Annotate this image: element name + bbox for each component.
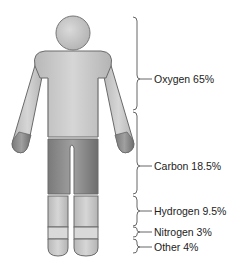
torso-oxygen	[34, 51, 111, 137]
left-leg-nitrogen	[48, 227, 68, 239]
right-arm	[103, 62, 134, 153]
right-leg-hydrogen	[74, 196, 98, 227]
right-leg-nitrogen	[74, 227, 98, 239]
head	[56, 16, 90, 50]
label-hydrogen: Hydrogen 9.5%	[154, 205, 226, 217]
brace-oxygen	[133, 17, 140, 110]
brace-carbon	[133, 112, 140, 194]
left-arm	[12, 62, 43, 153]
label-carbon: Carbon 18.5%	[154, 160, 221, 172]
label-other: Other 4%	[154, 241, 198, 253]
right-foot-other	[74, 239, 98, 256]
braces	[133, 17, 152, 253]
carbon-region	[48, 139, 98, 194]
left-leg-hydrogen	[48, 196, 68, 227]
brace-hydrogen	[133, 196, 140, 226]
label-oxygen: Oxygen 65%	[154, 73, 214, 85]
label-nitrogen: Nitrogen 3%	[154, 226, 212, 238]
brace-nitrogen	[133, 227, 140, 237]
left-foot-other	[48, 239, 68, 256]
brace-other	[133, 239, 140, 253]
